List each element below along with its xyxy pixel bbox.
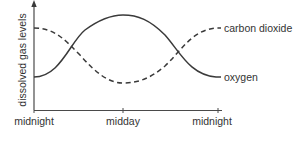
y-axis-arrow-icon (31, 0, 36, 7)
oxygen-line (34, 15, 221, 77)
carbon-dioxide-line (34, 28, 221, 83)
carbon-dioxide-label: carbon dioxide (224, 22, 292, 34)
y-axis-label: dissolved gas levels (16, 13, 28, 106)
x-tick-label-midnight-end: midnight (192, 115, 232, 127)
x-tick-label-midday: midday (106, 115, 141, 127)
chart: carbon dioxide oxygen dissolved gas leve… (0, 0, 302, 143)
oxygen-label: oxygen (224, 71, 258, 83)
x-tick-label-midnight-start: midnight (14, 115, 54, 127)
